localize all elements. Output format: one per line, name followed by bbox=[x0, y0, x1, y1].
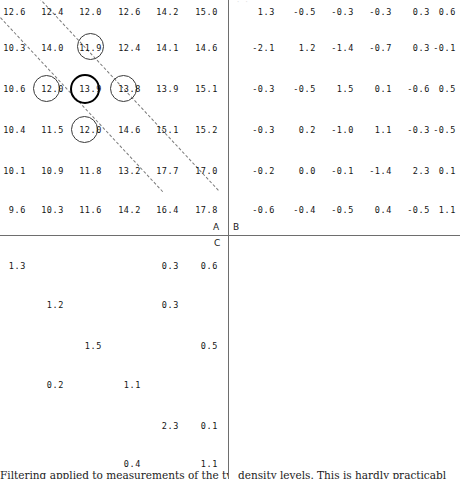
cell-a-r0-c4: 14.2 bbox=[153, 7, 179, 17]
cell-b-r0-c0: 1.3 bbox=[249, 7, 275, 17]
cell-a-r1-c3: 12.4 bbox=[115, 43, 141, 53]
cell-a-r0-c5: 15.0 bbox=[192, 7, 218, 17]
cell-a-r4-c1: 10.9 bbox=[38, 166, 64, 176]
cell-a-r1-c4: 14.1 bbox=[153, 43, 179, 53]
cell-b-r0-c2: -0.3 bbox=[324, 7, 354, 17]
cell-b-r5-c3: 0.4 bbox=[366, 205, 392, 215]
cell-a-r1-c0: 10.3 bbox=[0, 43, 26, 53]
caption-right-column: density levels. This is hardly practicab… bbox=[238, 469, 460, 479]
cell-b-r1-c1: 1.2 bbox=[290, 43, 316, 53]
cell-c-r3-c3: 1.1 bbox=[115, 380, 141, 390]
cell-c-r5-c5: 1.1 bbox=[192, 459, 218, 469]
cell-a-r3-c5: 15.2 bbox=[192, 125, 218, 135]
cell-b-r4-c1: 0.0 bbox=[290, 166, 316, 176]
cell-b-r4-c5: 0.1 bbox=[430, 166, 456, 176]
cell-b-r1-c3: -0.7 bbox=[362, 43, 392, 53]
cell-a-r1-c2: 11.9 bbox=[76, 43, 102, 53]
top-edge-artifact: · · bbox=[236, 0, 249, 6]
cell-b-r3-c5: -0.5 bbox=[426, 125, 456, 135]
cell-a-r0-c3: 12.6 bbox=[115, 7, 141, 17]
cell-b-r2-c3: 0.1 bbox=[366, 84, 392, 94]
cell-c-r2-c5: 0.5 bbox=[192, 341, 218, 351]
cell-b-r1-c2: -1.4 bbox=[324, 43, 354, 53]
cell-b-r1-c0: -2.1 bbox=[245, 43, 275, 53]
cell-b-r2-c0: -0.3 bbox=[245, 84, 275, 94]
cell-a-r5-c3: 14.2 bbox=[115, 205, 141, 215]
cell-c-r0-c0: 1.3 bbox=[0, 261, 26, 271]
cell-c-r4-c4: 2.3 bbox=[153, 421, 179, 431]
cell-a-r1-c1: 14.0 bbox=[38, 43, 64, 53]
cell-a-r2-c5: 15.1 bbox=[192, 84, 218, 94]
cell-a-r4-c4: 17.7 bbox=[153, 166, 179, 176]
cell-b-r2-c1: -0.5 bbox=[286, 84, 316, 94]
cell-b-r2-c2: 1.5 bbox=[328, 84, 354, 94]
cell-c-r2-c2: 1.5 bbox=[76, 341, 102, 351]
cell-b-r5-c5: 1.1 bbox=[430, 205, 456, 215]
cell-b-r5-c2: -0.5 bbox=[324, 205, 354, 215]
cell-b-r5-c0: -0.6 bbox=[245, 205, 275, 215]
cell-a-r3-c4: 15.1 bbox=[153, 125, 179, 135]
cell-a-r2-c4: 13.9 bbox=[153, 84, 179, 94]
cell-a-r2-c2: 13.9 bbox=[76, 84, 102, 94]
cell-b-r0-c1: -0.5 bbox=[286, 7, 316, 17]
cell-a-r1-c5: 14.6 bbox=[192, 43, 218, 53]
cell-a-r2-c3: 13.8 bbox=[115, 84, 141, 94]
cell-c-r0-c4: 0.3 bbox=[153, 261, 179, 271]
cell-b-r1-c5: -0.1 bbox=[426, 43, 456, 53]
cell-b-r4-c2: -0.1 bbox=[324, 166, 354, 176]
cell-a-r5-c5: 17.8 bbox=[192, 205, 218, 215]
caption-left-column: Filtering applied to measurements of the… bbox=[0, 469, 228, 479]
cell-a-r5-c0: 9.6 bbox=[0, 205, 26, 215]
cell-c-r0-c5: 0.6 bbox=[192, 261, 218, 271]
cell-b-r4-c4: 2.3 bbox=[404, 166, 430, 176]
cell-a-r4-c3: 13.2 bbox=[115, 166, 141, 176]
cell-c-r1-c4: 0.3 bbox=[153, 300, 179, 310]
cell-c-r3-c1: 0.2 bbox=[38, 380, 64, 390]
cell-a-r3-c2: 12.0 bbox=[76, 125, 102, 135]
cell-a-r4-c2: 11.8 bbox=[76, 166, 102, 176]
cell-a-r5-c4: 16.4 bbox=[153, 205, 179, 215]
cell-b-r3-c1: 0.2 bbox=[290, 125, 316, 135]
quadrant-label-c: C bbox=[214, 238, 220, 248]
cell-b-r0-c3: -0.3 bbox=[362, 7, 392, 17]
figure-canvas: · · 12.6 12.4 12.0 12.6 14.2 15.0 10.3 1… bbox=[0, 0, 460, 479]
cell-a-r0-c1: 12.4 bbox=[38, 7, 64, 17]
cell-a-r0-c2: 12.0 bbox=[76, 7, 102, 17]
cell-b-r5-c4: -0.5 bbox=[400, 205, 430, 215]
cell-b-r3-c3: 1.1 bbox=[366, 125, 392, 135]
vertical-divider bbox=[228, 0, 229, 479]
cell-b-r4-c3: -1.4 bbox=[362, 166, 392, 176]
cell-b-r3-c0: -0.3 bbox=[245, 125, 275, 135]
cell-a-r3-c0: 10.4 bbox=[0, 125, 26, 135]
cell-b-r4-c0: -0.2 bbox=[245, 166, 275, 176]
cell-a-r0-c0: 12.6 bbox=[0, 7, 26, 17]
cell-b-r3-c2: -1.0 bbox=[324, 125, 354, 135]
cell-a-r5-c2: 11.6 bbox=[76, 205, 102, 215]
cell-a-r3-c3: 14.6 bbox=[115, 125, 141, 135]
cell-c-r5-c3: 0.4 bbox=[115, 459, 141, 469]
cell-a-r3-c1: 11.5 bbox=[38, 125, 64, 135]
quadrant-label-b: B bbox=[233, 222, 239, 232]
cell-a-r5-c1: 10.3 bbox=[38, 205, 64, 215]
cell-a-r2-c1: 12.0 bbox=[38, 84, 64, 94]
cell-c-r1-c1: 1.2 bbox=[38, 300, 64, 310]
cell-b-r2-c5: 0.5 bbox=[430, 84, 456, 94]
cell-a-r4-c0: 10.1 bbox=[0, 166, 26, 176]
cell-a-r2-c0: 10.6 bbox=[0, 84, 26, 94]
cell-b-r0-c4: 0.3 bbox=[404, 7, 430, 17]
cell-b-r5-c1: -0.4 bbox=[286, 205, 316, 215]
quadrant-label-a: A bbox=[213, 222, 219, 232]
cell-a-r4-c5: 17.0 bbox=[192, 166, 218, 176]
cell-b-r0-c5: 0.6 bbox=[430, 7, 456, 17]
horizontal-divider bbox=[0, 235, 460, 236]
cell-b-r2-c4: -0.6 bbox=[400, 84, 430, 94]
cell-c-r4-c5: 0.1 bbox=[192, 421, 218, 431]
